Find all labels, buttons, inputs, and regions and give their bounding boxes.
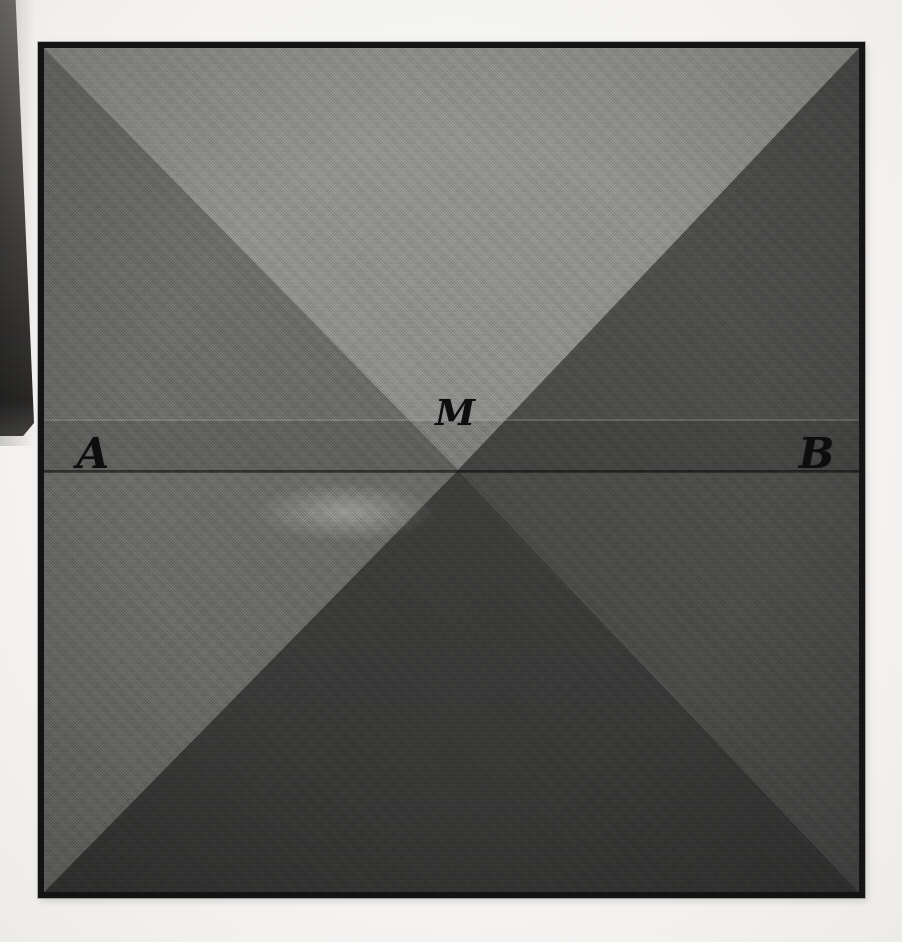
- label-point-a: A: [77, 433, 110, 475]
- page-edge-artifact: [0, 0, 34, 436]
- chord-line-ab: [44, 470, 859, 473]
- plate-inner: A B M: [44, 48, 859, 892]
- figure-plate: A B M: [38, 42, 865, 898]
- scanned-page: A B M: [0, 0, 902, 942]
- label-point-m: M: [435, 394, 475, 430]
- label-point-b: B: [799, 433, 835, 475]
